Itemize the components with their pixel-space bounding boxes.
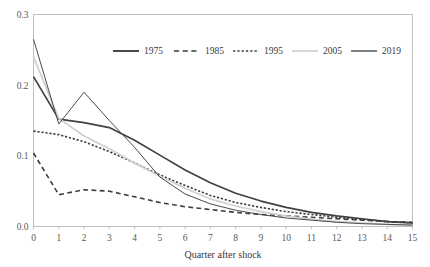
legend-label-1985: 1985 [205, 46, 224, 56]
y-axis-tick-labels: 0.00.10.20.3 [17, 10, 29, 232]
chart-container: 0.00.10.20.3 0123456789101112131415 1975… [0, 0, 430, 267]
x-axis-title: Quarter after shock [184, 249, 261, 260]
x-tick-label: 1 [56, 233, 61, 243]
x-tick-label: 12 [332, 233, 342, 243]
legend-label-1975: 1975 [144, 46, 163, 56]
x-tick-label: 0 [31, 233, 36, 243]
x-tick-label: 7 [208, 233, 213, 243]
x-tick-label: 9 [259, 233, 264, 243]
legend-label-2005: 2005 [323, 46, 342, 56]
legend-label-2019: 2019 [382, 46, 401, 56]
x-tick-label: 6 [183, 233, 188, 243]
x-axis-tick-labels: 0123456789101112131415 [31, 227, 417, 243]
line-chart: 0.00.10.20.3 0123456789101112131415 1975… [0, 0, 430, 267]
x-tick-label: 4 [132, 233, 137, 243]
x-tick-label: 2 [82, 233, 87, 243]
y-tick-label: 0.2 [17, 81, 29, 91]
y-tick-label: 0.0 [17, 222, 29, 232]
x-tick-label: 8 [233, 233, 238, 243]
legend-label-1995: 1995 [264, 46, 283, 56]
x-tick-label: 10 [281, 233, 291, 243]
x-tick-label: 3 [107, 233, 112, 243]
x-tick-label: 13 [357, 233, 367, 243]
y-tick-label: 0.3 [17, 10, 29, 20]
x-tick-label: 5 [157, 233, 162, 243]
y-tick-label: 0.1 [17, 151, 29, 161]
x-tick-label: 15 [408, 233, 418, 243]
x-tick-label: 11 [307, 233, 316, 243]
x-tick-label: 14 [382, 233, 392, 243]
